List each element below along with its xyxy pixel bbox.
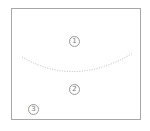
marker-1: 1 — [69, 36, 80, 47]
diagram-canvas — [0, 0, 150, 131]
marker-3: 3 — [28, 104, 39, 115]
dotted-curve — [22, 53, 133, 72]
marker-2: 2 — [69, 84, 80, 95]
